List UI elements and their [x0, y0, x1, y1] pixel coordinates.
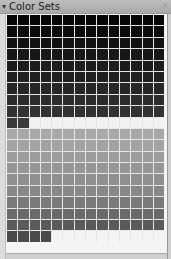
color-swatch[interactable]: [18, 38, 28, 48]
color-swatch[interactable]: [52, 72, 62, 82]
color-swatch[interactable]: [75, 26, 85, 36]
color-swatch[interactable]: [30, 118, 40, 128]
color-swatch[interactable]: [7, 220, 17, 230]
color-swatch[interactable]: [86, 186, 96, 196]
color-swatch[interactable]: [131, 106, 141, 116]
color-swatch[interactable]: [143, 118, 153, 128]
color-swatch[interactable]: [109, 49, 119, 59]
color-swatch[interactable]: [41, 129, 51, 139]
color-swatch[interactable]: [109, 140, 119, 150]
color-swatch[interactable]: [63, 95, 73, 105]
color-swatch[interactable]: [86, 106, 96, 116]
color-swatch[interactable]: [143, 26, 153, 36]
color-swatch[interactable]: [7, 95, 17, 105]
color-swatch[interactable]: [109, 95, 119, 105]
color-swatch[interactable]: [18, 197, 28, 207]
color-swatch[interactable]: [52, 186, 62, 196]
color-swatch[interactable]: [52, 83, 62, 93]
color-swatch[interactable]: [143, 72, 153, 82]
color-swatch[interactable]: [97, 186, 107, 196]
color-swatch[interactable]: [52, 106, 62, 116]
color-swatch[interactable]: [30, 140, 40, 150]
color-swatch[interactable]: [18, 209, 28, 219]
color-swatch[interactable]: [131, 95, 141, 105]
color-swatch[interactable]: [41, 152, 51, 162]
color-swatch[interactable]: [18, 49, 28, 59]
color-swatch[interactable]: [63, 174, 73, 184]
color-swatch[interactable]: [86, 72, 96, 82]
color-swatch[interactable]: [120, 140, 130, 150]
color-swatch[interactable]: [154, 72, 164, 82]
color-swatch[interactable]: [30, 197, 40, 207]
color-swatch[interactable]: [154, 49, 164, 59]
color-swatch[interactable]: [52, 129, 62, 139]
color-swatch[interactable]: [63, 140, 73, 150]
color-swatch[interactable]: [7, 197, 17, 207]
color-swatch[interactable]: [97, 197, 107, 207]
color-swatch[interactable]: [97, 118, 107, 128]
color-swatch[interactable]: [75, 49, 85, 59]
color-swatch[interactable]: [63, 209, 73, 219]
color-swatch[interactable]: [97, 220, 107, 230]
color-swatch[interactable]: [120, 220, 130, 230]
color-swatch[interactable]: [86, 197, 96, 207]
color-swatch[interactable]: [7, 49, 17, 59]
color-swatch[interactable]: [120, 83, 130, 93]
color-swatch[interactable]: [97, 26, 107, 36]
color-swatch[interactable]: [30, 152, 40, 162]
color-swatch[interactable]: [143, 49, 153, 59]
color-swatch[interactable]: [97, 140, 107, 150]
color-swatch[interactable]: [52, 26, 62, 36]
color-swatch[interactable]: [41, 140, 51, 150]
color-swatch[interactable]: [131, 49, 141, 59]
color-swatch[interactable]: [30, 129, 40, 139]
color-swatch[interactable]: [7, 209, 17, 219]
color-swatch[interactable]: [63, 129, 73, 139]
color-swatch[interactable]: [18, 83, 28, 93]
color-swatch[interactable]: [7, 72, 17, 82]
color-swatch[interactable]: [109, 38, 119, 48]
color-swatch[interactable]: [86, 15, 96, 25]
color-swatch[interactable]: [120, 26, 130, 36]
color-swatch[interactable]: [52, 49, 62, 59]
color-swatch[interactable]: [154, 174, 164, 184]
color-swatch[interactable]: [63, 197, 73, 207]
color-swatch[interactable]: [86, 152, 96, 162]
color-swatch[interactable]: [154, 186, 164, 196]
color-swatch[interactable]: [109, 174, 119, 184]
color-swatch[interactable]: [7, 61, 17, 71]
color-swatch[interactable]: [131, 174, 141, 184]
color-swatch[interactable]: [30, 163, 40, 173]
color-swatch[interactable]: [30, 83, 40, 93]
color-swatch[interactable]: [86, 174, 96, 184]
color-swatch[interactable]: [30, 186, 40, 196]
color-swatch[interactable]: [109, 26, 119, 36]
color-swatch[interactable]: [86, 140, 96, 150]
color-swatch[interactable]: [75, 95, 85, 105]
color-swatch[interactable]: [18, 26, 28, 36]
color-swatch[interactable]: [7, 231, 17, 241]
color-swatch[interactable]: [30, 106, 40, 116]
color-swatch[interactable]: [86, 220, 96, 230]
color-swatch[interactable]: [131, 129, 141, 139]
color-swatch[interactable]: [120, 118, 130, 128]
color-swatch[interactable]: [131, 38, 141, 48]
color-swatch[interactable]: [52, 95, 62, 105]
color-swatch[interactable]: [97, 38, 107, 48]
color-swatch[interactable]: [86, 209, 96, 219]
color-swatch[interactable]: [120, 72, 130, 82]
color-swatch[interactable]: [18, 163, 28, 173]
close-icon[interactable]: ×: [161, 2, 169, 10]
color-swatch[interactable]: [120, 152, 130, 162]
color-swatch[interactable]: [143, 220, 153, 230]
color-swatch[interactable]: [109, 209, 119, 219]
color-swatch[interactable]: [7, 118, 17, 128]
color-swatch[interactable]: [75, 152, 85, 162]
color-swatch[interactable]: [75, 72, 85, 82]
color-swatch[interactable]: [86, 38, 96, 48]
color-swatch[interactable]: [109, 83, 119, 93]
color-swatch[interactable]: [52, 140, 62, 150]
color-swatch[interactable]: [120, 129, 130, 139]
color-swatch[interactable]: [63, 72, 73, 82]
color-swatch[interactable]: [86, 26, 96, 36]
